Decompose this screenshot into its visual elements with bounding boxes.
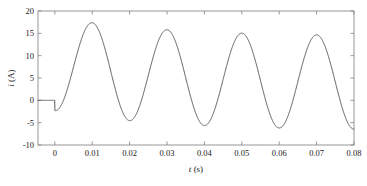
x-axis-title-text: t (s) — [189, 164, 203, 174]
chart-canvas: 00.010.020.030.040.050.060.070.08 -10-50… — [0, 0, 367, 186]
x-tick-label: 0.08 — [347, 148, 362, 158]
y-axis-title: i (A) — [6, 69, 16, 86]
x-axis-tick-labels: 00.010.020.030.040.050.060.070.08 — [53, 148, 362, 158]
y-tick-label: 0 — [30, 95, 34, 105]
x-tick-label: 0 — [53, 148, 57, 158]
x-tick-label: 0.04 — [197, 148, 213, 158]
x-tick-label: 0.06 — [272, 148, 287, 158]
y-axis-tick-labels: -10-505101520 — [23, 6, 34, 150]
y-tick-label: 5 — [30, 73, 34, 83]
plot-area — [38, 11, 354, 145]
x-tick-label: 0.01 — [85, 148, 100, 158]
x-tick-label: 0.05 — [234, 148, 249, 158]
y-tick-label: -10 — [23, 140, 34, 150]
x-axis-title: t (s) — [189, 164, 203, 174]
y-tick-label: 15 — [26, 28, 35, 38]
y-tick-label: 10 — [26, 51, 35, 61]
plot-background — [38, 11, 354, 145]
y-tick-label: 20 — [26, 6, 35, 16]
x-tick-label: 0.02 — [122, 148, 137, 158]
figure-container: 00.010.020.030.040.050.060.070.08 -10-50… — [0, 0, 367, 186]
y-tick-label: -5 — [27, 118, 34, 128]
y-axis-title-text: i (A) — [6, 69, 16, 86]
x-tick-label: 0.03 — [160, 148, 175, 158]
x-tick-label: 0.07 — [309, 148, 324, 158]
